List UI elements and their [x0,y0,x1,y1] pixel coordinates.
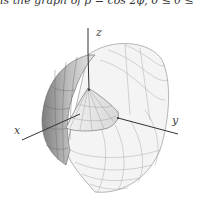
axis-label-z: z [96,26,102,39]
axis-label-x: x [14,124,20,137]
axis-label-y: y [172,114,178,127]
